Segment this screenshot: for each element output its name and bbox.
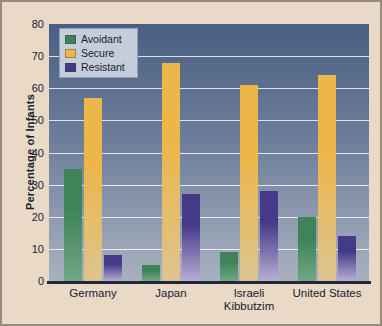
legend-label-resistant: Resistant (81, 61, 125, 73)
figure-page: Percentage of Infants 01020304050607080 … (0, 0, 382, 326)
y-tick-label-50: 50 (2, 114, 44, 126)
legend-item-resistant: Resistant (65, 60, 133, 74)
bar-secure-3 (318, 75, 336, 281)
bar-secure-2 (240, 85, 258, 281)
x-category-label-3: United States (285, 287, 369, 300)
x-category-label-0: Germany (51, 287, 135, 300)
bar-resistant-2 (260, 191, 278, 281)
bar-secure-0 (84, 98, 102, 281)
legend-swatch-avoidant (65, 35, 76, 44)
y-tick-label-60: 60 (2, 82, 44, 94)
legend-swatch-secure (65, 49, 76, 58)
y-tick-label-30: 30 (2, 179, 44, 191)
legend: AvoidantSecureResistant (59, 28, 138, 78)
bar-resistant-3 (338, 236, 356, 281)
attachment-bar-chart: Percentage of Infants 01020304050607080 … (2, 2, 380, 324)
y-tick-label-0: 0 (2, 275, 44, 287)
bar-avoidant-1 (142, 265, 160, 281)
y-tick-label-40: 40 (2, 147, 44, 159)
bar-secure-1 (162, 63, 180, 281)
bar-avoidant-3 (298, 217, 316, 281)
y-tick-label-70: 70 (2, 50, 44, 62)
bar-resistant-0 (104, 255, 122, 281)
legend-label-secure: Secure (81, 47, 114, 59)
x-axis-line (47, 281, 371, 284)
bar-avoidant-2 (220, 252, 238, 281)
x-category-label-1: Japan (129, 287, 213, 300)
legend-item-secure: Secure (65, 46, 133, 60)
x-category-label-2: Israeli Kibbutzim (207, 287, 291, 312)
y-tick-label-80: 80 (2, 18, 44, 30)
y-tick-label-10: 10 (2, 243, 44, 255)
legend-item-avoidant: Avoidant (65, 32, 133, 46)
bar-resistant-1 (182, 194, 200, 281)
y-tick-label-20: 20 (2, 211, 44, 223)
legend-label-avoidant: Avoidant (81, 33, 122, 45)
bar-avoidant-0 (64, 169, 82, 281)
legend-swatch-resistant (65, 63, 76, 72)
